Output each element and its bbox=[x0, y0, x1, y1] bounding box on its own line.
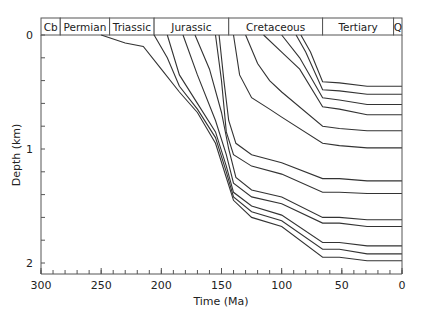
burial-curve-horizon-7 bbox=[219, 35, 402, 181]
x-tick-label: 0 bbox=[399, 279, 406, 292]
x-tick-label: 50 bbox=[335, 279, 349, 292]
x-axis-title: Time (Ma) bbox=[192, 295, 248, 308]
period-label-tertiary: Tertiary bbox=[337, 21, 377, 33]
y-tick-label: 1 bbox=[26, 143, 33, 156]
burial-curves bbox=[101, 35, 402, 261]
period-label-triassic: Triassic bbox=[112, 21, 151, 33]
x-tick-label: 300 bbox=[31, 279, 52, 292]
period-label-jurassic: Jurassic bbox=[170, 21, 211, 33]
burial-curve-horizon-1 bbox=[101, 35, 402, 261]
period-label-q: Q bbox=[394, 21, 402, 33]
burial-curve-horizon-10 bbox=[264, 35, 402, 115]
burial-curve-horizon-12 bbox=[296, 35, 402, 94]
x-tick-label: 150 bbox=[211, 279, 232, 292]
axes: 300250200150100500 012 bbox=[26, 29, 406, 292]
burial-curve-horizon-13 bbox=[301, 35, 402, 86]
geologic-period-bar: CbPermianTriassicJurassicCretaceousTerti… bbox=[41, 18, 402, 35]
y-tick-label: 0 bbox=[26, 29, 33, 42]
y-tick-label: 2 bbox=[26, 257, 33, 270]
y-axis-ticks: 012 bbox=[26, 29, 45, 270]
burial-curve-horizon-9 bbox=[246, 35, 402, 131]
x-tick-label: 100 bbox=[271, 279, 292, 292]
x-tick-label: 200 bbox=[151, 279, 172, 292]
x-axis-ticks: 300250200150100500 bbox=[31, 268, 406, 292]
burial-curve-horizon-2 bbox=[154, 35, 402, 254]
x-tick-label: 250 bbox=[91, 279, 112, 292]
y-axis-title: Depth (km) bbox=[10, 124, 23, 187]
period-label-cretaceous: Cretaceous bbox=[246, 21, 305, 33]
period-label-permian: Permian bbox=[64, 21, 107, 33]
burial-history-chart: CbPermianTriassicJurassicCretaceousTerti… bbox=[0, 0, 423, 327]
period-label-cb: Cb bbox=[44, 21, 58, 33]
burial-curve-horizon-3 bbox=[167, 35, 402, 246]
